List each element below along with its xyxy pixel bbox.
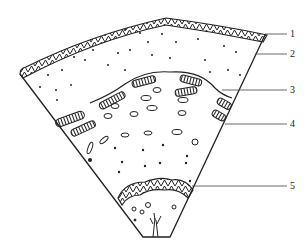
label-4: 4	[290, 119, 295, 129]
label-1: 1	[290, 29, 295, 39]
sector-diagram	[0, 0, 306, 251]
leader-lines	[192, 34, 287, 186]
lower-dots	[88, 144, 191, 182]
label-5: 5	[290, 181, 295, 191]
layer-4-hatched-bodies	[55, 74, 233, 137]
layer-2-dots	[39, 29, 241, 101]
label-2: 2	[290, 49, 295, 59]
layer-1-crust	[20, 18, 267, 78]
label-3: 3	[290, 85, 295, 95]
layer-5-crust	[118, 178, 193, 205]
wedge-outline	[20, 35, 265, 237]
